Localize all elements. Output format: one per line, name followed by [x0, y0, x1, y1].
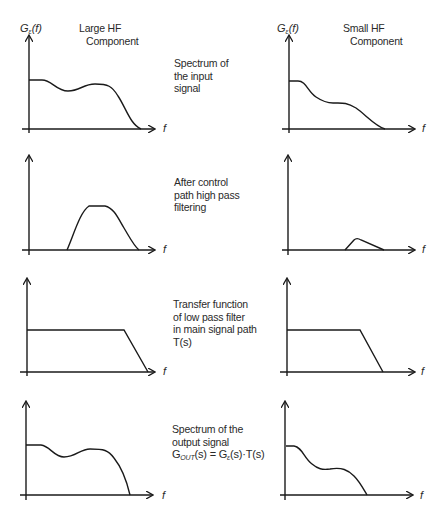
y-axis-label-right: Gε(f) [277, 22, 299, 35]
hpf-spectrum-curve [345, 239, 384, 251]
column-title-left-line1: Large HF [79, 22, 121, 35]
x-axis-label: f [163, 243, 166, 255]
column-title-right-line2: Component [350, 35, 402, 48]
output-spectrum-curve [26, 445, 130, 495]
plot-input-large-hf [22, 36, 154, 133]
plot-hpf-small-hf [282, 156, 414, 255]
x-axis-label: f [422, 243, 425, 255]
plot-lpf-large-hf [20, 279, 154, 376]
plot-input-small-hf [282, 36, 414, 133]
output-formula: GOUT(s) = Gε(s)·T(s) [172, 448, 264, 465]
row-description-output: Spectrum of the output signal GOUT(s) = … [172, 423, 264, 465]
plot-hpf-large-hf [22, 156, 154, 255]
y-axis-label-left: Gε(f) [20, 22, 42, 35]
x-axis-label: f [163, 365, 166, 377]
lpf-transfer-curve [287, 330, 383, 372]
hpf-spectrum-curve [67, 206, 139, 250]
row-description-hpf: After control path high pass filtering [174, 176, 240, 214]
plot-output-large-hf [20, 402, 152, 500]
plot-lpf-small-hf [280, 279, 414, 376]
output-spectrum-curve [286, 446, 367, 495]
row-description-input: Spectrum of the input signal [174, 57, 228, 95]
x-axis-label: f [420, 489, 423, 501]
column-title-right-line1: Small HF [343, 22, 385, 35]
input-spectrum-curve [289, 81, 385, 129]
x-axis-label: f [162, 489, 165, 501]
row-description-lpf: Transfer function of low pass filter in … [173, 298, 257, 348]
x-axis-label: f [421, 365, 424, 377]
x-axis-label: f [163, 122, 166, 134]
input-spectrum-curve [29, 80, 141, 129]
transfer-function-formula: T(s) [173, 336, 257, 349]
plot-output-small-hf [280, 402, 412, 500]
lpf-transfer-curve [27, 330, 148, 372]
x-axis-label: f [422, 122, 425, 134]
column-title-left-line2: Component [86, 35, 138, 48]
